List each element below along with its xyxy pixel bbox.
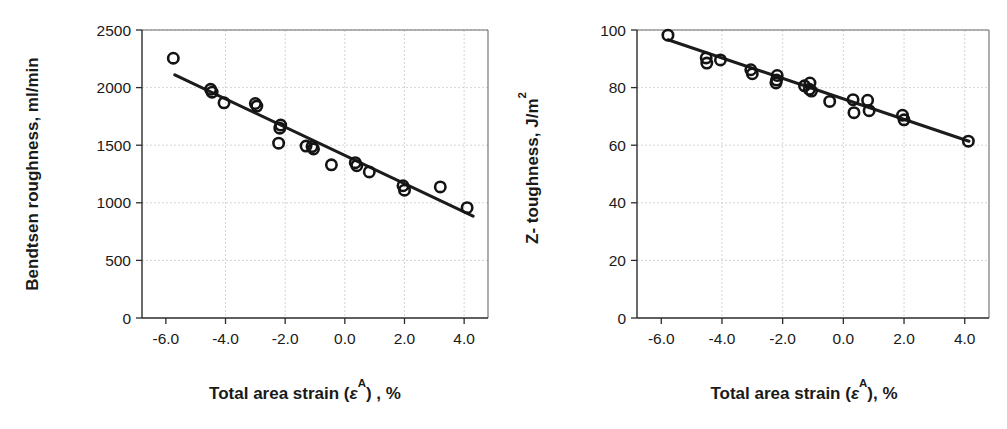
x-axis-tick-label: 4.0	[954, 330, 976, 347]
y-axis-tick-label: 0	[122, 310, 131, 327]
data-point-marker	[326, 160, 336, 170]
x-axis-tick-label: 2.0	[893, 330, 915, 347]
data-point-marker	[824, 96, 834, 106]
y-axis-tick-label: 60	[609, 137, 627, 154]
x-axis-tick-label: 2.0	[394, 330, 416, 347]
data-point-marker	[435, 182, 445, 192]
x-axis-tick-label: 0.0	[833, 330, 855, 347]
x-axis-tick-label: 0.0	[334, 330, 356, 347]
y-axis-tick-label: 500	[105, 252, 131, 269]
x-axis-tick-label: -4.0	[709, 330, 736, 347]
x-axis-tick-label: -2.0	[272, 330, 299, 347]
data-point-marker	[462, 202, 472, 212]
y-axis-tick-label: 2000	[97, 79, 132, 96]
bendtsen-roughness-chart: 05001000150020002500-6.0-4.0-2.00.02.04.…	[0, 0, 504, 429]
x-axis-tick-label: -6.0	[648, 330, 675, 347]
y-axis-tick-label: 40	[609, 194, 627, 211]
data-point-marker	[273, 138, 283, 148]
data-point-marker	[862, 95, 872, 105]
z-toughness-y-axis-title: Z- toughness, J/m2	[516, 92, 542, 244]
y-axis-tick-label: 1000	[97, 194, 132, 211]
y-axis-tick-label: 0	[617, 310, 626, 327]
z-toughness-data-points	[663, 30, 974, 146]
x-axis-tick-label: -2.0	[769, 330, 796, 347]
x-axis-tick-label: -4.0	[212, 330, 239, 347]
bendtsen-roughness-data-points	[168, 53, 472, 213]
z-toughness-x-axis-title: Total area strain (εA), %	[710, 377, 897, 403]
y-axis-tick-label: 100	[600, 22, 626, 39]
z-toughness-plot-frame	[637, 30, 989, 318]
bendtsen-roughness-gridlines	[142, 30, 488, 318]
z-toughness-chart: 020406080100-6.0-4.0-2.00.02.04.0Total a…	[504, 0, 1007, 429]
y-axis-tick-label: 1500	[97, 137, 132, 154]
bendtsen-roughness-svg: 05001000150020002500-6.0-4.0-2.00.02.04.…	[0, 0, 504, 429]
x-axis-tick-label: 4.0	[453, 330, 475, 347]
z-toughness-y-axis: 020406080100	[600, 22, 637, 327]
y-axis-tick-label: 2500	[97, 22, 132, 39]
bendtsen-roughness-x-axis: -6.0-4.0-2.00.02.04.0	[153, 318, 476, 347]
bendtsen-roughness-y-axis: 05001000150020002500	[97, 22, 142, 327]
z-toughness-gridlines	[637, 30, 989, 318]
z-toughness-x-axis: -6.0-4.0-2.00.02.04.0	[648, 318, 976, 347]
bendtsen-roughness-y-axis-title: Bendtsen roughness, ml/min	[23, 57, 42, 290]
y-axis-tick-label: 80	[609, 79, 627, 96]
figure-container: 05001000150020002500-6.0-4.0-2.00.02.04.…	[0, 0, 1007, 429]
data-point-marker	[168, 53, 178, 63]
y-axis-tick-label: 20	[609, 252, 627, 269]
z-toughness-svg: 020406080100-6.0-4.0-2.00.02.04.0Total a…	[504, 0, 1007, 429]
z-toughness-linear-regression-line	[668, 40, 969, 141]
x-axis-tick-label: -6.0	[153, 330, 180, 347]
bendtsen-roughness-x-axis-title: Total area strain (εA) , %	[209, 377, 401, 403]
bendtsen-roughness-plot-frame	[142, 30, 488, 318]
data-point-marker	[849, 107, 859, 117]
